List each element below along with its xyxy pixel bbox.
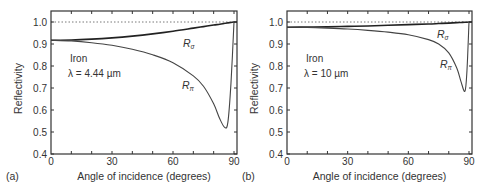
x-tick-label: 90: [228, 156, 240, 167]
material-label: Iron: [306, 53, 323, 64]
y-tick-label: 0.4: [269, 149, 283, 160]
panel-label: (a): [6, 170, 19, 182]
panel-a-chart: 0.40.50.60.70.80.91.00306090Angle of inc…: [6, 11, 240, 182]
material-label: Iron: [70, 53, 87, 64]
x-tick-label: 0: [284, 156, 290, 167]
y-tick-label: 0.8: [269, 61, 283, 72]
y-tick-label: 0.9: [33, 39, 47, 50]
y-tick-label: 1.0: [33, 17, 47, 28]
y-tick-label: 0.4: [33, 149, 47, 160]
r-pi-label: Rπ: [182, 79, 195, 92]
y-axis-label: Reflectivity: [12, 62, 24, 114]
x-tick-label: 60: [167, 156, 179, 167]
reflectivity-figure: 0.40.50.60.70.80.91.00306090Angle of inc…: [0, 0, 489, 192]
y-tick-label: 0.5: [33, 127, 47, 138]
x-tick-label: 90: [463, 156, 475, 167]
r-sigma-curve: [287, 22, 469, 27]
y-axis-label: Reflectivity: [248, 62, 260, 114]
plot-frame: [51, 11, 237, 154]
y-tick-label: 0.8: [33, 61, 47, 72]
panel-label: (b): [242, 170, 255, 182]
y-tick-label: 0.6: [33, 105, 47, 116]
r-sigma-curve: [51, 22, 234, 40]
x-axis-label: Angle of incidence (degrees): [313, 170, 447, 182]
r-pi-label: Rπ: [440, 58, 453, 71]
x-tick-label: 0: [48, 156, 54, 167]
x-tick-label: 30: [106, 156, 118, 167]
y-tick-label: 0.7: [269, 83, 283, 94]
panel-b-chart: 0.40.50.60.70.80.91.00306090Angle of inc…: [242, 11, 475, 182]
r-sigma-label: Rσ: [183, 37, 196, 50]
wavelength-label: λ = 4.44 µm: [68, 68, 121, 79]
x-tick-label: 60: [403, 156, 415, 167]
y-tick-label: 1.0: [269, 17, 283, 28]
y-tick-label: 0.9: [269, 39, 283, 50]
y-tick-label: 0.7: [33, 83, 47, 94]
x-axis-label: Angle of incidence (degrees): [77, 170, 211, 182]
wavelength-label: λ = 10 µm: [304, 68, 348, 79]
x-tick-label: 30: [342, 156, 354, 167]
y-tick-label: 0.5: [269, 127, 283, 138]
y-tick-label: 0.6: [269, 105, 283, 116]
r-sigma-label: Rσ: [437, 28, 450, 41]
